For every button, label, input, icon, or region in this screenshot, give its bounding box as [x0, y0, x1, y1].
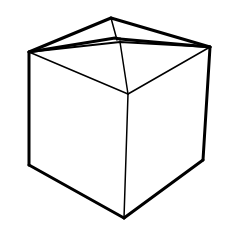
cube-drawing [0, 0, 230, 231]
front-vertical-edge [124, 94, 128, 218]
top-face-left-edge [29, 52, 128, 94]
lid-to-front-vertex [120, 42, 128, 94]
bottom-right-edge [124, 160, 203, 218]
right-edge [203, 47, 210, 160]
top-face-right-edge [128, 47, 210, 94]
bottom-left-edge [29, 165, 124, 218]
